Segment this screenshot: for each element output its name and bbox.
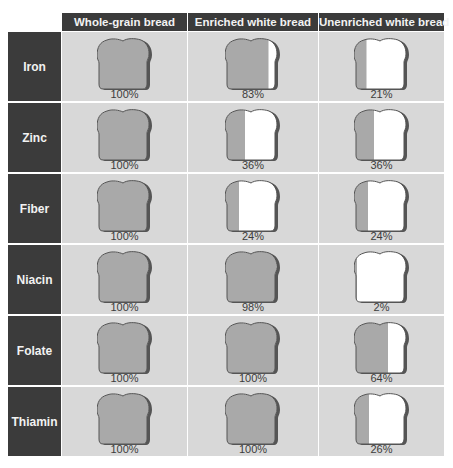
bread-slice-icon [97,37,153,91]
row-label-niacin: Niacin [8,245,61,314]
percentage-value: 100% [62,230,187,242]
row-label-zinc: Zinc [8,103,61,172]
bread-slice-icon [225,250,281,304]
table-cell: 100% [188,316,318,385]
bread-slice-icon [97,108,153,162]
percentage-value: 21% [319,88,444,100]
percentage-value: 100% [62,372,187,384]
table-cell: 100% [62,103,187,172]
table-cell: 100% [62,316,187,385]
column-header-enriched-white-bread: Enriched white bread [188,13,318,31]
table-cell: 24% [319,174,444,243]
percentage-value: 26% [319,443,444,455]
percentage-value: 100% [62,443,187,455]
bread-slice-icon [225,108,281,162]
table-cell: 100% [62,32,187,101]
bread-slice-icon [225,37,281,91]
table-cell: 100% [62,174,187,243]
bread-slice-icon [97,250,153,304]
percentage-value: 100% [188,443,318,455]
percentage-value: 100% [62,159,187,171]
percentage-value: 64% [319,372,444,384]
percentage-value: 98% [188,301,318,313]
table-cell: 100% [62,245,187,314]
row-label-thiamin: Thiamin [8,387,61,456]
percentage-value: 36% [319,159,444,171]
percentage-value: 83% [188,88,318,100]
bread-slice-icon [97,392,153,446]
figure-caption-cut-off [20,460,280,468]
percentage-value: 24% [319,230,444,242]
table-cell: 100% [62,387,187,456]
bread-slice-icon [97,179,153,233]
bread-slice-icon [97,321,153,375]
table-cell: 64% [319,316,444,385]
percentage-value: 100% [62,301,187,313]
bread-slice-icon [225,392,281,446]
table-cell: 2% [319,245,444,314]
percentage-value: 24% [188,230,318,242]
table-cell: 21% [319,32,444,101]
row-label-fiber: Fiber [8,174,61,243]
column-header-whole-grain-bread: Whole-grain bread [62,13,187,31]
table-cell: 36% [188,103,318,172]
bread-slice-icon [354,37,410,91]
bread-slice-icon [354,321,410,375]
table-cell: 36% [319,103,444,172]
percentage-value: 2% [319,301,444,313]
table-cell: 98% [188,245,318,314]
table-cell: 26% [319,387,444,456]
bread-slice-icon [225,179,281,233]
percentage-value: 100% [62,88,187,100]
percentage-value: 36% [188,159,318,171]
percentage-value: 100% [188,372,318,384]
table-cell: 24% [188,174,318,243]
bread-slice-icon [354,179,410,233]
column-header-unenriched-white-bread: Unenriched white bread [319,13,444,31]
row-label-folate: Folate [8,316,61,385]
bread-slice-icon [354,108,410,162]
table-cell: 100% [188,387,318,456]
bread-slice-icon [354,392,410,446]
row-label-iron: Iron [8,32,61,101]
table-cell: 83% [188,32,318,101]
bread-slice-icon [225,321,281,375]
bread-slice-icon [354,250,410,304]
